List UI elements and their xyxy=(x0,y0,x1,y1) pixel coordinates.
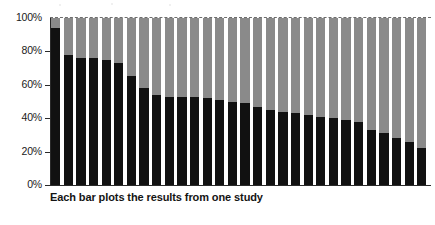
bar xyxy=(165,18,174,185)
bar-segment-lower xyxy=(102,60,111,185)
bar-segment-lower xyxy=(316,117,325,185)
bar xyxy=(139,18,148,185)
bar-segment-lower xyxy=(291,113,300,185)
bar-segment-lower xyxy=(76,58,85,185)
bar xyxy=(51,18,60,185)
bar-segment-upper xyxy=(341,18,350,120)
bar-segment-upper xyxy=(152,18,161,95)
y-axis-tick-mark xyxy=(45,152,50,153)
bar xyxy=(354,18,363,185)
bar xyxy=(417,18,426,185)
bar xyxy=(316,18,325,185)
bar-segment-lower xyxy=(203,98,212,185)
bar xyxy=(341,18,350,185)
scan-artifact-top xyxy=(0,0,435,8)
bar-segment-lower xyxy=(114,63,123,185)
bar-segment-upper xyxy=(405,18,414,142)
bar-segment-lower xyxy=(89,58,98,185)
bar-segment-upper xyxy=(51,18,60,28)
bar-segment-upper xyxy=(139,18,148,88)
bar-segment-upper xyxy=(64,18,73,55)
y-axis-tick-label: 60% xyxy=(22,78,42,90)
bar xyxy=(379,18,388,185)
bar-segment-lower xyxy=(417,148,426,185)
bar xyxy=(127,18,136,185)
bar xyxy=(253,18,262,185)
bar xyxy=(291,18,300,185)
bar-segment-upper xyxy=(417,18,426,148)
bar-segment-lower xyxy=(329,118,338,185)
y-axis-tick-mark xyxy=(45,185,50,186)
y-axis-tick-label: 80% xyxy=(22,44,42,56)
bar-segment-lower xyxy=(165,97,174,186)
bar-segment-lower xyxy=(152,95,161,185)
bar xyxy=(114,18,123,185)
bar-segment-lower xyxy=(177,97,186,186)
bar xyxy=(215,18,224,185)
bar-segment-upper xyxy=(102,18,111,60)
bar-segment-upper xyxy=(165,18,174,96)
bar-segment-lower xyxy=(190,97,199,186)
bar xyxy=(278,18,287,185)
bar xyxy=(152,18,161,185)
bar-segment-lower xyxy=(139,88,148,185)
bar-segment-lower xyxy=(367,130,376,185)
bar-segment-upper xyxy=(329,18,338,118)
bar xyxy=(392,18,401,185)
bar-segment-upper xyxy=(89,18,98,58)
bar-segment-upper xyxy=(266,18,275,110)
bar-segment-lower xyxy=(304,115,313,185)
bar xyxy=(240,18,249,185)
bar-segment-upper xyxy=(291,18,300,113)
bar xyxy=(177,18,186,185)
bar-segment-upper xyxy=(354,18,363,122)
bar xyxy=(89,18,98,185)
bar xyxy=(228,18,237,185)
bar-segment-upper xyxy=(190,18,199,96)
bar-segment-upper xyxy=(228,18,237,102)
bar xyxy=(64,18,73,185)
bar-segment-upper xyxy=(392,18,401,138)
stacked-bar-chart-figure: 0%20%40%60%80%100% Each bar plots the re… xyxy=(0,0,435,225)
bar xyxy=(102,18,111,185)
bar xyxy=(367,18,376,185)
bar-segment-lower xyxy=(127,76,136,185)
bar-segment-upper xyxy=(367,18,376,130)
y-axis-tick-mark xyxy=(45,51,50,52)
bar-segment-lower xyxy=(341,120,350,185)
bar xyxy=(405,18,414,185)
y-axis-tick-label: 100% xyxy=(16,11,42,23)
bar-segment-lower xyxy=(64,55,73,185)
bar-segment-upper xyxy=(240,18,249,103)
bar-segment-lower xyxy=(228,102,237,186)
bar xyxy=(76,18,85,185)
bar-segment-upper xyxy=(127,18,136,76)
bar-segment-lower xyxy=(51,28,60,185)
bar-segment-lower xyxy=(266,110,275,185)
bar-segment-upper xyxy=(203,18,212,98)
bar-segment-upper xyxy=(114,18,123,63)
bar-segment-lower xyxy=(392,138,401,185)
bar-segment-lower xyxy=(405,142,414,185)
bar xyxy=(266,18,275,185)
bar xyxy=(203,18,212,185)
bar xyxy=(304,18,313,185)
bar-segment-upper xyxy=(76,18,85,58)
bars-container xyxy=(51,18,430,185)
bar-segment-lower xyxy=(278,112,287,185)
bar-segment-upper xyxy=(253,18,262,107)
y-axis-tick-mark xyxy=(45,85,50,86)
y-axis-tick-mark xyxy=(45,118,50,119)
bar-segment-upper xyxy=(278,18,287,112)
bar xyxy=(190,18,199,185)
bar-segment-lower xyxy=(253,107,262,185)
x-axis-baseline xyxy=(50,185,431,186)
y-axis-tick-label: 0% xyxy=(27,178,42,190)
bar-segment-lower xyxy=(215,100,224,185)
bar-segment-lower xyxy=(379,133,388,185)
bar-segment-lower xyxy=(354,122,363,185)
y-axis-tick-label: 20% xyxy=(22,145,42,157)
scan-artifact-bottom xyxy=(70,218,320,225)
bar-segment-upper xyxy=(177,18,186,96)
bar-segment-upper xyxy=(215,18,224,100)
